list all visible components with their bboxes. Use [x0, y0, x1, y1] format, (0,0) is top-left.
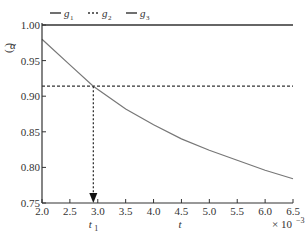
y-tick-label: 0.85 [21, 126, 41, 138]
y-axis-label: α [10, 39, 16, 51]
legend: g1g2g3 [50, 7, 150, 22]
chart: g1g2g3 0.750.800.850.900.951.002.02.53.0… [0, 0, 307, 237]
t1-subscript: 1 [94, 224, 98, 233]
plot-area [42, 25, 293, 203]
x-tick-label: 6.0 [258, 205, 272, 217]
x-tick-label: 4.0 [147, 205, 161, 217]
t1-label: t [89, 218, 93, 230]
series-g3 [42, 39, 293, 179]
legend-subscript-g3: 3 [146, 14, 150, 22]
x-multiplier: × 10 [272, 218, 292, 230]
x-axis-label: t [178, 218, 182, 230]
y-tick-label: 1.00 [21, 19, 41, 31]
x-tick-label: 5.0 [202, 205, 216, 217]
x-tick-label: 2.0 [35, 205, 49, 217]
x-tick-label: 5.5 [230, 205, 244, 217]
y-tick-label: 0.95 [21, 55, 41, 67]
arrow-down-icon [89, 193, 97, 203]
legend-subscript-g1: 1 [70, 14, 74, 22]
x-tick-label: 3.0 [91, 205, 105, 217]
legend-subscript-g2: 2 [108, 14, 112, 22]
y-tick-label: 0.90 [21, 90, 41, 102]
x-tick-label: 2.5 [63, 205, 77, 217]
axes: 0.750.800.850.900.951.002.02.53.03.54.04… [2, 19, 305, 233]
x-tick-label: 3.5 [119, 205, 133, 217]
x-tick-label: 4.5 [175, 205, 189, 217]
x-multiplier-exponent: −3 [296, 216, 305, 225]
y-tick-label: 0.80 [21, 161, 41, 173]
